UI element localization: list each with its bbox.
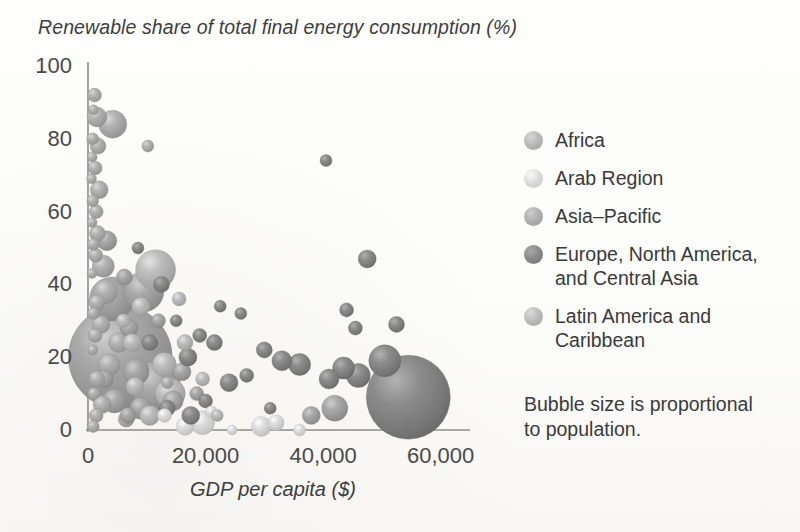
bubble[interactable] — [268, 415, 284, 431]
legend-label: Asia–Pacific — [555, 204, 661, 228]
bubble[interactable] — [87, 269, 97, 279]
bubble[interactable] — [126, 377, 144, 395]
bubble[interactable] — [88, 345, 98, 355]
legend-note: Bubble size is proportional to populatio… — [524, 392, 774, 442]
bubble[interactable] — [87, 195, 99, 207]
bubble[interactable] — [87, 420, 99, 432]
bubble[interactable] — [264, 402, 276, 414]
legend: AfricaArab RegionAsia–PacificEurope, Nor… — [524, 128, 792, 366]
bubble[interactable] — [322, 395, 348, 421]
bubble[interactable] — [289, 354, 311, 376]
bubble[interactable] — [272, 351, 292, 371]
bubble[interactable] — [294, 424, 306, 436]
legend-label: Africa — [555, 128, 605, 152]
bubble[interactable] — [220, 374, 238, 392]
y-tick-label: 100 — [0, 53, 72, 79]
bubble[interactable] — [196, 372, 210, 386]
bubble[interactable] — [214, 300, 226, 312]
bubble[interactable] — [227, 425, 237, 435]
bubble[interactable] — [206, 335, 222, 351]
bubble[interactable] — [116, 269, 132, 285]
bubble[interactable] — [88, 88, 102, 102]
legend-swatch-1 — [524, 131, 543, 150]
x-tick-label: 40,000 — [289, 443, 356, 469]
bubble[interactable] — [89, 371, 105, 387]
bubble[interactable] — [132, 242, 144, 254]
y-tick-label: 0 — [0, 417, 72, 443]
x-tick-label: 20,000 — [172, 443, 239, 469]
bubble[interactable] — [320, 155, 332, 167]
bubble[interactable] — [89, 248, 103, 262]
legend-item[interactable]: Arab Region — [524, 166, 792, 190]
bubble[interactable] — [142, 140, 154, 152]
bubble[interactable] — [193, 328, 207, 342]
bubble[interactable] — [87, 133, 99, 145]
bubble[interactable] — [358, 250, 376, 268]
bubble[interactable] — [251, 416, 271, 436]
bubble[interactable] — [116, 314, 130, 328]
bubble[interactable] — [87, 218, 97, 228]
y-tick-label: 20 — [0, 344, 72, 370]
bubble[interactable] — [389, 316, 405, 332]
bubble[interactable] — [177, 335, 193, 351]
legend-item[interactable]: Europe, North America, and Central Asia — [524, 242, 792, 290]
bubble[interactable] — [87, 308, 99, 320]
legend-label: Latin America and Caribbean — [555, 304, 792, 352]
plot-svg — [0, 0, 520, 500]
y-tick-label: 80 — [0, 126, 72, 152]
legend-item[interactable]: Asia–Pacific — [524, 204, 792, 228]
legend-swatch-2 — [524, 169, 543, 188]
x-tick-label: 0 — [82, 443, 94, 469]
bubble[interactable] — [161, 377, 173, 389]
bubble[interactable] — [123, 334, 141, 352]
legend-item[interactable]: Africa — [524, 128, 792, 152]
bubble[interactable] — [211, 409, 223, 421]
bubble[interactable] — [140, 405, 160, 425]
chart-page: Renewable share of total final energy co… — [0, 0, 800, 532]
bubble[interactable] — [88, 161, 102, 175]
bubble[interactable] — [87, 174, 97, 184]
bubble[interactable] — [89, 408, 103, 422]
bubble-layer — [68, 88, 450, 439]
y-tick-label: 40 — [0, 271, 72, 297]
bubble[interactable] — [157, 408, 171, 422]
legend-swatch-3 — [524, 207, 543, 226]
bubble[interactable] — [120, 407, 136, 423]
bubble[interactable] — [256, 342, 272, 358]
bubble[interactable] — [87, 152, 97, 162]
bubble[interactable] — [319, 369, 339, 389]
bubble[interactable] — [172, 292, 186, 306]
bubble[interactable] — [170, 315, 182, 327]
bubble[interactable] — [302, 406, 320, 424]
bubble[interactable] — [142, 335, 158, 351]
bubble[interactable] — [88, 388, 100, 400]
x-axis-title: GDP per capita ($) — [190, 478, 356, 501]
bubble[interactable] — [132, 297, 150, 315]
bubble[interactable] — [235, 308, 247, 320]
bubble[interactable] — [179, 348, 197, 366]
bubble[interactable] — [152, 314, 166, 328]
bubble[interactable] — [154, 276, 170, 292]
legend-label: Arab Region — [555, 166, 663, 190]
bubble-chart-plot — [0, 0, 520, 500]
legend-item[interactable]: Latin America and Caribbean — [524, 304, 792, 352]
bubble[interactable] — [88, 105, 98, 115]
legend-label: Europe, North America, and Central Asia — [555, 242, 792, 290]
bubble[interactable] — [88, 328, 102, 342]
bubble[interactable] — [240, 368, 254, 382]
legend-swatch-4 — [524, 245, 543, 264]
legend-swatch-5 — [524, 307, 543, 326]
x-tick-label: 60,000 — [407, 443, 474, 469]
bubble[interactable] — [340, 303, 354, 317]
y-tick-label: 60 — [0, 199, 72, 225]
bubble[interactable] — [369, 345, 401, 377]
bubble[interactable] — [87, 238, 99, 250]
bubble[interactable] — [348, 321, 362, 335]
bubble[interactable] — [182, 406, 200, 424]
